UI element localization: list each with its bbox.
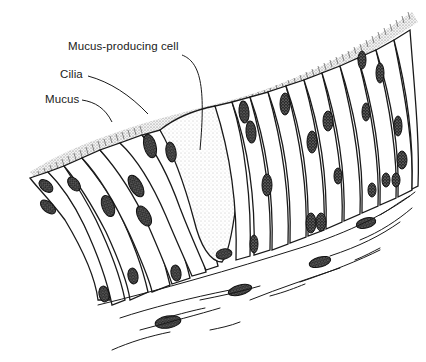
label-mucus-producing-cell: Mucus-producing cell — [68, 40, 179, 52]
leader-cilia — [88, 76, 148, 114]
epithelial-cells — [30, 30, 418, 305]
leader-mucus — [82, 100, 112, 122]
label-cilia: Cilia — [60, 68, 83, 80]
epithelium-diagram — [0, 0, 426, 362]
label-mucus: Mucus — [45, 93, 79, 105]
